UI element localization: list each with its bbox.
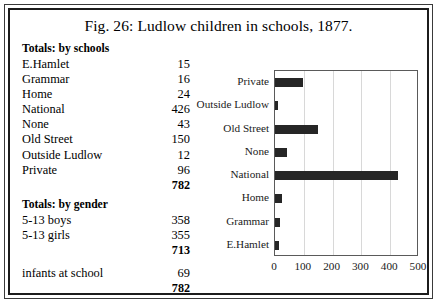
y-axis-label: Home xyxy=(242,191,269,204)
totals-by-schools-heading: Totals: by schools xyxy=(22,42,190,56)
bar-chart: PrivateOutside LudlowOld StreetNoneNatio… xyxy=(200,40,427,292)
row-value: 426 xyxy=(171,102,190,117)
row-label: E.Hamlet xyxy=(22,57,69,72)
gender-subtotal-row: 713 xyxy=(22,243,190,258)
gender-total-row: 782 xyxy=(22,281,190,293)
table-row: Grammar 16 xyxy=(22,72,190,87)
x-axis-tick: 200 xyxy=(323,260,340,273)
y-axis-label: E.Hamlet xyxy=(226,238,269,251)
row-label: Private xyxy=(22,163,57,178)
row-value: 43 xyxy=(178,117,190,132)
row-value: 96 xyxy=(178,163,190,178)
row-value: 355 xyxy=(171,228,190,243)
table-row: None 43 xyxy=(22,117,190,132)
row-value: 12 xyxy=(178,148,190,163)
bar-grammar xyxy=(275,218,280,227)
schools-total-row: 782 xyxy=(22,178,190,193)
figure-title: Fig. 26: Ludlow children in schools, 187… xyxy=(10,16,427,35)
table-row: 5-13 girls 355 xyxy=(22,228,190,243)
table-row: infants at school 69 xyxy=(22,266,190,281)
table-row: Home 24 xyxy=(22,87,190,102)
totals-by-schools-table: Totals: by schools E.Hamlet 15 Grammar 1… xyxy=(22,42,190,193)
y-axis-label: Outside Ludlow xyxy=(197,98,269,111)
bar-track xyxy=(275,171,417,180)
row-value: 15 xyxy=(178,57,190,72)
table-row: Old Street 150 xyxy=(22,132,190,147)
schools-total-value: 782 xyxy=(172,178,190,193)
row-label: Home xyxy=(22,87,52,102)
bar-track xyxy=(275,241,417,250)
figure-body: Fig. 26: Ludlow children in schools, 187… xyxy=(10,10,427,293)
table-row: Outside Ludlow 12 xyxy=(22,148,190,163)
bar-track xyxy=(275,78,417,87)
row-value: 24 xyxy=(178,87,190,102)
totals-by-gender-table: Totals: by gender 5-13 boys 358 5-13 gir… xyxy=(22,198,190,293)
chart-y-axis-labels: PrivateOutside LudlowOld StreetNoneNatio… xyxy=(200,70,269,256)
totals-by-gender-heading: Totals: by gender xyxy=(22,198,190,212)
bar-national xyxy=(275,171,398,180)
y-axis-label: None xyxy=(245,145,269,158)
bar-track xyxy=(275,194,417,203)
chart-bars xyxy=(275,71,417,255)
row-label: 5-13 boys xyxy=(22,213,71,228)
row-label: National xyxy=(22,102,65,117)
row-label: Grammar xyxy=(22,72,69,87)
figure-outer-border: Fig. 26: Ludlow children in schools, 187… xyxy=(4,4,433,299)
row-label: infants at school xyxy=(22,266,103,281)
table-row: E.Hamlet 15 xyxy=(22,57,190,72)
figure-inner-border: Fig. 26: Ludlow children in schools, 187… xyxy=(8,8,429,295)
x-axis-tick: 500 xyxy=(410,260,427,273)
row-label: Old Street xyxy=(22,132,73,147)
row-value: 150 xyxy=(171,132,190,147)
x-axis-tick: 0 xyxy=(271,260,277,273)
bar-e-hamlet xyxy=(275,241,279,250)
bar-track xyxy=(275,148,417,157)
table-row: National 426 xyxy=(22,102,190,117)
bar-private xyxy=(275,78,303,87)
y-axis-label: Grammar xyxy=(226,215,269,228)
gender-subtotal-value: 713 xyxy=(172,243,190,258)
table-row: 5-13 boys 358 xyxy=(22,213,190,228)
bar-track xyxy=(275,125,417,134)
x-axis-tick: 100 xyxy=(294,260,311,273)
gender-total-value: 782 xyxy=(172,281,190,293)
bar-track xyxy=(275,218,417,227)
y-axis-label: National xyxy=(230,168,269,181)
table-row: Private 96 xyxy=(22,163,190,178)
row-value: 358 xyxy=(171,213,190,228)
row-value: 69 xyxy=(178,266,190,281)
chart-x-axis-ticks: 0100200300400500 xyxy=(274,260,418,276)
x-axis-tick: 400 xyxy=(381,260,398,273)
row-label: 5-13 girls xyxy=(22,228,70,243)
row-label: None xyxy=(22,117,49,132)
chart-plot-area xyxy=(274,70,418,256)
row-label: Outside Ludlow xyxy=(22,148,102,163)
bar-track xyxy=(275,101,417,110)
y-axis-label: Private xyxy=(237,75,269,88)
row-value: 16 xyxy=(178,72,190,87)
bar-old-street xyxy=(275,125,318,134)
bar-outside-ludlow xyxy=(275,101,278,110)
y-axis-label: Old Street xyxy=(223,122,269,135)
x-axis-tick: 300 xyxy=(352,260,369,273)
bar-home xyxy=(275,194,282,203)
row-spacer xyxy=(22,258,190,266)
bar-none xyxy=(275,148,287,157)
